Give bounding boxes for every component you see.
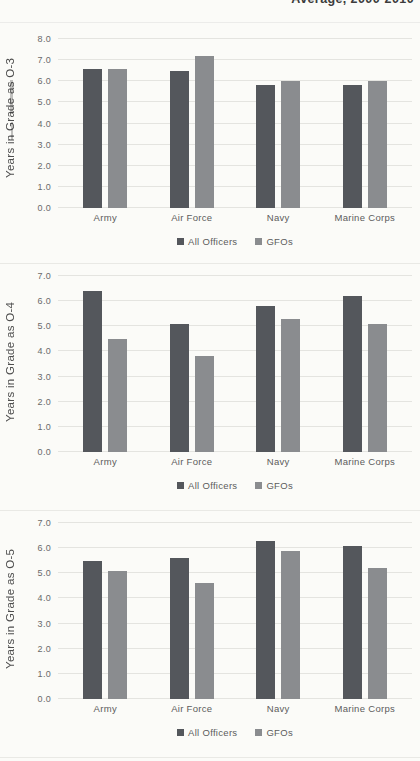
category-label-army: Army (62, 456, 149, 472)
bar-marine-corps-all-officers (343, 85, 362, 208)
legend: All OfficersGFOs (58, 472, 412, 498)
cropped-page-title-text: Average, 2000-2010 (0, 0, 420, 6)
category-label-marine-corps: Marine Corps (322, 456, 409, 472)
bar-group-army (62, 39, 149, 208)
bar-army-all-officers (83, 69, 102, 208)
bar-army-gfos (108, 339, 127, 452)
bar-army-gfos (108, 571, 127, 699)
y-tick-label: 3.0 (38, 619, 51, 629)
category-label-army: Army (62, 212, 149, 228)
y-tick-label: 5.0 (38, 97, 51, 107)
y-tick-label: 0.0 (38, 694, 51, 704)
bar-group-marine-corps (322, 276, 409, 452)
bar-army-gfos (108, 69, 127, 208)
bar-group-marine-corps (322, 39, 409, 208)
y-tick-label: 2.0 (38, 644, 51, 654)
category-label-navy: Navy (235, 703, 322, 719)
bar-group-navy (235, 276, 322, 452)
bar-navy-all-officers (256, 306, 275, 452)
bar-group-air-force (149, 523, 236, 699)
y-tick-label: 8.0 (38, 34, 51, 44)
y-tick-label: 0.0 (38, 203, 51, 213)
legend-swatch-gfos (255, 238, 262, 245)
charts-container: Years in Grade as O-3 0.01.02.03.04.05.0… (0, 22, 420, 758)
legend-swatch-gfos (255, 729, 262, 736)
legend: All OfficersGFOs (58, 228, 412, 254)
bar-navy-gfos (281, 81, 300, 208)
bar-navy-all-officers (256, 541, 275, 699)
x-axis-category-labels: ArmyAir ForceNavyMarine Corps (58, 699, 412, 719)
y-axis-title: Years in Grade as O-5 (4, 521, 16, 697)
bar-group-air-force (149, 39, 236, 208)
y-tick-label: 1.0 (38, 422, 51, 432)
bar-air-force-gfos (195, 56, 214, 208)
legend-label-gfos: GFOs (266, 480, 293, 491)
legend-item-all-officers: All Officers (177, 480, 237, 491)
y-tick-label: 4.0 (38, 119, 51, 129)
y-tick-label: 6.0 (38, 543, 51, 553)
bar-groups (62, 39, 408, 208)
category-label-navy: Navy (235, 456, 322, 472)
category-label-air-force: Air Force (149, 212, 236, 228)
bar-navy-all-officers (256, 85, 275, 208)
y-axis-title: Years in Grade as O-3 (4, 33, 16, 203)
chart-years-in-grade-o4: Years in Grade as O-4 0.01.02.03.04.05.0… (0, 264, 420, 511)
bar-army-all-officers (83, 291, 102, 452)
legend-item-all-officers: All Officers (177, 236, 237, 247)
legend-swatch-gfos (255, 482, 262, 489)
y-tick-label: 7.0 (38, 271, 51, 281)
category-label-air-force: Air Force (149, 456, 236, 472)
bar-navy-gfos (281, 319, 300, 452)
bar-group-army (62, 276, 149, 452)
legend-swatch-all-officers (177, 238, 184, 245)
scan-artifact (10, 80, 13, 114)
category-label-navy: Navy (235, 212, 322, 228)
y-tick-label: 6.0 (38, 76, 51, 86)
y-tick-label: 5.0 (38, 568, 51, 578)
plot-area: 0.01.02.03.04.05.06.07.0 (58, 523, 412, 699)
chart-years-in-grade-o3: Years in Grade as O-3 0.01.02.03.04.05.0… (0, 22, 420, 264)
category-label-army: Army (62, 703, 149, 719)
legend-item-gfos: GFOs (255, 236, 293, 247)
legend-label-all-officers: All Officers (188, 480, 237, 491)
bar-groups (62, 523, 408, 699)
bar-marine-corps-gfos (368, 81, 387, 208)
y-tick-label: 7.0 (38, 518, 51, 528)
y-tick-label: 4.0 (38, 593, 51, 603)
bar-group-navy (235, 39, 322, 208)
y-tick-label: 1.0 (38, 182, 51, 192)
y-tick-label: 2.0 (38, 397, 51, 407)
bar-group-army (62, 523, 149, 699)
scan-artifact (11, 122, 13, 140)
y-tick-label: 5.0 (38, 321, 51, 331)
bar-group-marine-corps (322, 523, 409, 699)
y-tick-label: 7.0 (38, 55, 51, 65)
bar-air-force-all-officers (170, 71, 189, 208)
bar-army-all-officers (83, 561, 102, 699)
bar-marine-corps-all-officers (343, 296, 362, 452)
legend-swatch-all-officers (177, 729, 184, 736)
x-axis-category-labels: ArmyAir ForceNavyMarine Corps (58, 208, 412, 228)
plot-area: 0.01.02.03.04.05.06.07.0 (58, 276, 412, 452)
y-tick-label: 2.0 (38, 161, 51, 171)
bar-air-force-all-officers (170, 558, 189, 699)
x-axis-category-labels: ArmyAir ForceNavyMarine Corps (58, 452, 412, 472)
bar-marine-corps-gfos (368, 324, 387, 452)
y-tick-label: 4.0 (38, 346, 51, 356)
cropped-page-title: Average, 2000-2010 (0, 0, 420, 7)
legend-item-gfos: GFOs (255, 480, 293, 491)
legend-label-gfos: GFOs (266, 727, 293, 738)
category-label-marine-corps: Marine Corps (322, 212, 409, 228)
legend-swatch-all-officers (177, 482, 184, 489)
y-axis-title: Years in Grade as O-4 (4, 274, 16, 450)
bar-group-navy (235, 523, 322, 699)
y-tick-label: 3.0 (38, 372, 51, 382)
y-tick-label: 6.0 (38, 296, 51, 306)
category-label-air-force: Air Force (149, 703, 236, 719)
y-tick-label: 0.0 (38, 447, 51, 457)
bar-air-force-all-officers (170, 324, 189, 452)
legend-label-all-officers: All Officers (188, 236, 237, 247)
legend-label-gfos: GFOs (266, 236, 293, 247)
y-tick-label: 3.0 (38, 140, 51, 150)
legend-label-all-officers: All Officers (188, 727, 237, 738)
